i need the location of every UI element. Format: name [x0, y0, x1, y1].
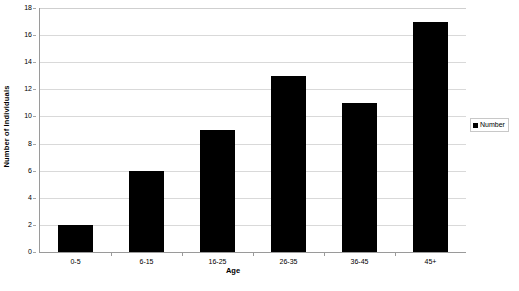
bar — [271, 76, 307, 252]
x-axis-tick-mark — [253, 252, 254, 256]
y-axis-tick-mark — [33, 198, 36, 199]
bar-chart: Number of Individuals 024681012141618 0-… — [0, 0, 519, 291]
y-axis-tick-labels: 024681012141618 — [14, 0, 36, 260]
x-axis-tick-mark — [111, 252, 112, 256]
y-axis-title-label: Number of Individuals — [3, 85, 12, 167]
x-axis-tick-label: 6-15 — [139, 258, 153, 265]
bar — [200, 130, 236, 252]
y-axis-tick-mark — [33, 171, 36, 172]
y-axis-tick-label: 6 — [28, 167, 32, 175]
y-axis-tick-label: 8 — [28, 140, 32, 148]
y-axis-tick-mark — [33, 252, 36, 253]
y-axis-tick-label: 12 — [24, 85, 32, 93]
y-axis-tick-label: 4 — [28, 194, 32, 202]
x-axis-tick-label: 26-35 — [280, 258, 298, 265]
y-axis-tick-mark — [33, 8, 36, 9]
y-axis-title: Number of Individuals — [0, 0, 14, 252]
y-axis-tick-mark — [33, 225, 36, 226]
plot-area — [39, 8, 466, 253]
legend-swatch-icon — [473, 123, 478, 128]
chart-legend: Number — [470, 118, 509, 132]
bar — [129, 171, 165, 252]
x-axis-tick-mark — [182, 252, 183, 256]
y-axis-tick-label: 2 — [28, 221, 32, 229]
x-axis-tick-label: 36-45 — [351, 258, 369, 265]
x-axis-title-label: Age — [226, 266, 240, 275]
y-axis-tick-label: 18 — [24, 4, 32, 12]
y-axis-tick-label: 0 — [28, 248, 32, 256]
clipped-caption — [0, 285, 519, 291]
x-axis-tick-label: 16-25 — [209, 258, 227, 265]
x-axis-tick-mark — [395, 252, 396, 256]
x-axis-tick-label: 0-5 — [70, 258, 80, 265]
y-axis-tick-mark — [33, 89, 36, 90]
bar — [413, 22, 449, 252]
bar — [58, 225, 94, 252]
x-axis-tick-label: 45+ — [425, 258, 437, 265]
y-axis-tick-mark — [33, 62, 36, 63]
bars-layer — [40, 8, 466, 252]
y-axis-tick-mark — [33, 116, 36, 117]
legend-label-number: Number — [480, 121, 505, 129]
x-axis-title: Age — [0, 266, 466, 275]
y-axis-tick-label: 10 — [24, 112, 32, 120]
y-axis-tick-mark — [33, 144, 36, 145]
y-axis-tick-label: 14 — [24, 58, 32, 66]
bar — [342, 103, 378, 252]
y-axis-tick-mark — [33, 35, 36, 36]
y-axis-tick-label: 16 — [24, 31, 32, 39]
x-axis-tick-mark — [324, 252, 325, 256]
